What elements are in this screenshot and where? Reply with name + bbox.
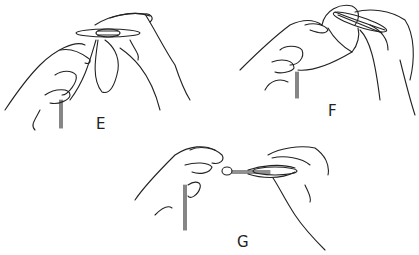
panel-g-illustration xyxy=(130,130,330,255)
panel-f-illustration xyxy=(210,0,419,135)
panel-f: F xyxy=(210,0,419,135)
panel-e: E xyxy=(0,0,210,135)
panel-label-f: F xyxy=(328,102,337,120)
panel-label-e: E xyxy=(96,115,105,133)
panel-g: G xyxy=(130,130,330,255)
panel-label-g: G xyxy=(237,233,249,251)
